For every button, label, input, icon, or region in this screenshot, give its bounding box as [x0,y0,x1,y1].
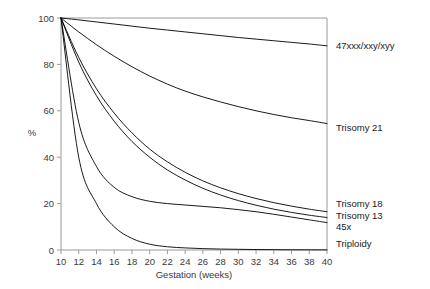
x-tick-group: 10121416182022242628303234363840 [56,250,333,267]
x-tick-label: 40 [322,256,333,267]
series-label-45x: 45x [336,221,352,232]
series-curve [61,18,327,223]
y-axis-title: % [28,127,37,138]
series-label-group: 47xxx/xxy/xyyTrisomy 21Trisomy 18Trisomy… [336,40,395,248]
y-tick-label: 20 [43,198,54,209]
series-label-trisomy-18: Trisomy 18 [336,198,383,209]
x-tick-label: 24 [180,256,191,267]
x-tick-label: 28 [215,256,226,267]
series-curve [61,18,327,46]
x-tick-label: 36 [286,256,297,267]
x-tick-label: 34 [269,256,280,267]
x-tick-label: 26 [198,256,209,267]
x-tick-label: 32 [251,256,262,267]
series-label-47xxx-xxy-xyy: 47xxx/xxy/xyy [336,40,395,51]
y-tick-label: 40 [43,152,54,163]
x-tick-label: 20 [144,256,155,267]
x-axis-title: Gestation (weeks) [156,269,233,280]
x-tick-label: 18 [127,256,138,267]
x-tick-label: 14 [91,256,102,267]
x-tick-label: 16 [109,256,120,267]
series-curve-group [61,18,327,250]
line-chart-svg: 020406080100 101214161820222426283032343… [0,0,430,289]
series-curve [61,18,327,212]
series-label-trisomy-13: Trisomy 13 [336,210,383,221]
series-curve [61,18,327,250]
x-tick-label: 22 [162,256,173,267]
y-tick-label: 100 [38,13,54,24]
series-curve [61,18,327,124]
x-tick-label: 30 [233,256,244,267]
series-label-trisomy-21: Trisomy 21 [336,122,383,133]
series-label-triploidy: Triploidy [336,238,372,249]
y-tick-label: 0 [49,245,54,256]
y-tick-label: 60 [43,105,54,116]
y-tick-group: 020406080100 [38,13,61,256]
chart-container: 020406080100 101214161820222426283032343… [0,0,430,289]
y-tick-label: 80 [43,59,54,70]
x-tick-label: 12 [73,256,84,267]
x-tick-label: 38 [304,256,315,267]
x-tick-label: 10 [56,256,67,267]
axis-group [61,18,327,250]
